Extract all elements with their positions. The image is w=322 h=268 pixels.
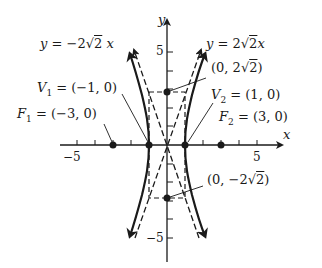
y-axis <box>167 20 173 262</box>
point-bottom-label: (0, −2√2) <box>207 173 269 186</box>
focus-F2-label: F2 = (3, 0) <box>219 110 288 127</box>
point-F1 <box>110 142 117 149</box>
y-tick-label-neg5: −5 <box>146 232 164 244</box>
point-F2 <box>218 142 225 149</box>
vertex-V2-label: V2 = (1, 0) <box>211 88 280 105</box>
x-tick-label-5: 5 <box>253 151 261 163</box>
y-axis-label: y <box>158 13 165 26</box>
vertex-V1-label: V1 = (−1, 0) <box>37 81 117 98</box>
x-tick-label-neg5: −5 <box>63 151 81 163</box>
leader-lines <box>104 78 213 198</box>
point-top-label: (0, 2√2) <box>211 61 263 74</box>
hyperbola-figure: y x −5 5 5 −5 y = −2√2 x y = 2√2x V1 = (… <box>0 0 322 268</box>
focus-F1-label: F1 = (−3, 0) <box>17 107 97 124</box>
x-axis-label: x <box>283 128 290 141</box>
y-tick-label-5: 5 <box>156 45 164 57</box>
point-V2 <box>182 142 189 149</box>
left-branch-lower <box>130 145 149 236</box>
x-axis <box>60 140 282 145</box>
point-B-top <box>164 89 171 96</box>
point-V1 <box>146 142 153 149</box>
right-branch-lower <box>185 145 205 236</box>
point-B-bottom <box>164 195 171 202</box>
asymptote-positive-label: y = 2√2x <box>206 37 265 50</box>
asymptote-positive <box>135 50 201 238</box>
asymptote-negative-label: y = −2√2 x <box>40 37 114 50</box>
